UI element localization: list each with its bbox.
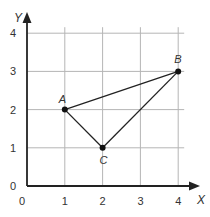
x-tick-label: 1 — [62, 195, 68, 207]
x-tick-label: 2 — [100, 195, 106, 207]
side-CA — [65, 110, 103, 148]
point-label-C: C — [100, 154, 108, 166]
point-label-B: B — [174, 53, 181, 65]
x-tick-label: 0 — [19, 195, 25, 207]
x-axis-label: X — [196, 193, 206, 207]
side-AB — [65, 71, 178, 109]
y-tick-label: 4 — [10, 27, 16, 39]
y-tick-label: 3 — [10, 65, 16, 77]
x-axis-arrow-icon — [189, 182, 200, 191]
point-B — [175, 68, 181, 74]
x-tick-label: 3 — [137, 195, 143, 207]
y-axis-label: Y — [14, 11, 23, 25]
axes: X Y — [14, 11, 206, 207]
point-A — [62, 107, 68, 113]
y-tick-label: 2 — [10, 104, 16, 116]
coordinate-plane: X Y 0123401234 ABC — [0, 0, 210, 217]
y-tick-label: 0 — [10, 180, 16, 192]
y-tick-label: 1 — [10, 142, 16, 154]
point-C — [100, 145, 106, 151]
tick-labels: 0123401234 — [10, 27, 181, 207]
point-label-A: A — [58, 93, 66, 105]
y-axis-arrow-icon — [23, 12, 32, 23]
x-tick-label: 4 — [175, 195, 181, 207]
